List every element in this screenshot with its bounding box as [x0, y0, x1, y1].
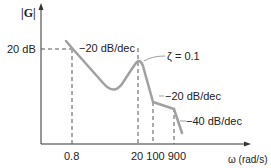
bode-plot [0, 0, 271, 168]
zeta-label: ζ = 0.1 [167, 51, 200, 62]
x-axis-arrow-icon [244, 142, 251, 147]
y-axis-label: |G| [21, 7, 36, 19]
zeta-leader-line [144, 56, 165, 61]
y-ref-label: 20 dB [7, 44, 36, 55]
x-axis-label: ω (rad/s) [228, 155, 267, 165]
tick-label-0-8: 0.8 [64, 151, 79, 162]
tick-label-20-100-900: 20 100 900 [131, 151, 186, 162]
slope3-label: −40 dB/dec [186, 116, 242, 127]
y-axis-arrow-icon [39, 3, 44, 10]
slope2-label: −20 dB/dec [165, 91, 221, 102]
slope1-label: −20 dB/dec [79, 43, 135, 54]
magnitude-curve [66, 41, 182, 133]
